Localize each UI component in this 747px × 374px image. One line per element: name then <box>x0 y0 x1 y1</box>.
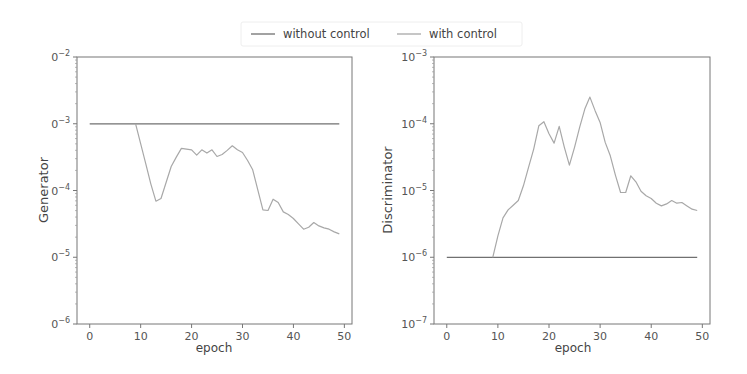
y-tick-label: 0−4 <box>51 183 70 198</box>
y-tick-label: 10−7 <box>401 316 427 331</box>
x-tick-label: 10 <box>134 330 148 343</box>
y-tick-label: 10−4 <box>401 116 427 131</box>
generator-chart: 01020304050 0−60−50−40−30−2 epoch Genera… <box>36 49 352 355</box>
generator-plot-frame <box>77 57 352 324</box>
series-line-with-control <box>136 124 340 234</box>
legend-label-without-control: without control <box>283 27 370 41</box>
y-tick-label: 0−2 <box>51 49 70 64</box>
generator-y-ticks: 0−60−50−40−30−2 <box>51 49 77 331</box>
figure: without control with control 01020304050… <box>0 0 747 374</box>
y-tick-label: 0−3 <box>51 116 70 131</box>
x-tick-label: 40 <box>644 330 658 343</box>
y-tick-label: 10−5 <box>401 183 427 198</box>
x-tick-label: 30 <box>593 330 607 343</box>
x-tick-label: 0 <box>443 330 450 343</box>
discriminator-chart: 01020304050 10−710−610−510−410−3 epoch D… <box>380 49 710 355</box>
discriminator-plot-frame <box>434 57 710 324</box>
discriminator-y-ticks: 10−710−610−510−410−3 <box>401 49 434 331</box>
generator-series <box>90 124 340 234</box>
x-tick-label: 30 <box>236 330 250 343</box>
x-tick-label: 10 <box>491 330 505 343</box>
x-tick-label: 40 <box>286 330 300 343</box>
x-tick-label: 50 <box>337 330 351 343</box>
x-tick-label: 0 <box>86 330 93 343</box>
discriminator-x-axis-label: epoch <box>555 341 592 355</box>
generator-y-axis-label: Generator <box>36 156 51 223</box>
discriminator-series <box>447 97 697 257</box>
y-tick-label: 10−6 <box>401 249 427 264</box>
discriminator-y-axis-label: Discriminator <box>380 146 395 234</box>
y-tick-label: 0−6 <box>51 316 70 331</box>
legend-label-with-control: with control <box>429 27 497 41</box>
y-tick-label: 0−5 <box>51 249 70 264</box>
legend: without control with control <box>241 22 522 46</box>
x-tick-label: 50 <box>695 330 709 343</box>
series-line-with-control <box>493 97 697 257</box>
generator-x-axis-label: epoch <box>196 341 233 355</box>
y-tick-label: 10−3 <box>401 49 427 64</box>
